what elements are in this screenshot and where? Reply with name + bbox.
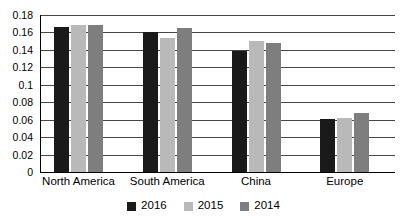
bar-group xyxy=(232,15,281,172)
legend-swatch-icon xyxy=(127,202,136,211)
bar-europe-2015 xyxy=(337,118,352,172)
bar-europe-2014 xyxy=(354,113,369,172)
y-axis-tick-label: 0.1 xyxy=(18,79,33,91)
y-axis-tick-label: 0 xyxy=(27,166,33,178)
bar-china-2015 xyxy=(249,41,264,172)
x-axis-label-europe: Europe xyxy=(326,175,363,187)
y-axis-tick-label: 0.06 xyxy=(13,114,33,126)
x-axis-label-china: China xyxy=(241,175,271,187)
y-axis-tick-label: 0.04 xyxy=(13,131,33,143)
y-axis-tick-label: 0.02 xyxy=(13,149,33,161)
bar-china-2016 xyxy=(232,51,247,172)
bar-group xyxy=(54,15,103,172)
legend-label: 2015 xyxy=(198,200,224,212)
y-axis-tick-label: 0.18 xyxy=(13,9,33,21)
bar-group xyxy=(320,15,369,172)
chart-legend: 201620152014 xyxy=(0,198,407,214)
bar-south-america-2014 xyxy=(177,28,192,172)
legend-label: 2016 xyxy=(141,200,167,212)
bar-chart: 00.020.040.060.080.10.120.140.160.18 Nor… xyxy=(0,0,407,223)
legend-label: 2014 xyxy=(254,200,280,212)
plot-area xyxy=(40,15,395,172)
y-axis-tick-labels: 00.020.040.060.080.10.120.140.160.18 xyxy=(0,0,36,223)
legend-item-2016[interactable]: 2016 xyxy=(127,200,167,212)
legend-swatch-icon xyxy=(184,202,193,211)
legend-item-2014[interactable]: 2014 xyxy=(240,200,280,212)
y-axis-tick-label: 0.08 xyxy=(13,96,33,108)
y-axis-tick-label: 0.16 xyxy=(13,26,33,38)
bar-north-america-2014 xyxy=(88,25,103,172)
x-axis-category-labels: North AmericaSouth AmericaChinaEurope xyxy=(40,175,395,191)
bar-north-america-2015 xyxy=(71,25,86,172)
bar-europe-2016 xyxy=(320,119,335,172)
bar-china-2014 xyxy=(266,43,281,172)
bar-group xyxy=(143,15,192,172)
x-axis-label-south-america: South America xyxy=(130,175,205,187)
bar-north-america-2016 xyxy=(54,27,69,172)
legend-item-2015[interactable]: 2015 xyxy=(184,200,224,212)
y-axis-tick-label: 0.12 xyxy=(13,61,33,73)
bar-south-america-2015 xyxy=(160,38,175,172)
y-axis-tick-label: 0.14 xyxy=(13,44,33,56)
x-axis-line xyxy=(40,172,395,173)
x-axis-label-north-america: North America xyxy=(42,175,115,187)
legend-swatch-icon xyxy=(240,202,249,211)
bar-south-america-2016 xyxy=(143,32,158,172)
